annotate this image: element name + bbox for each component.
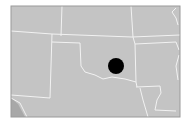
location-marker-dot: [108, 58, 124, 74]
locator-map: [0, 0, 190, 128]
map-land: [11, 6, 180, 117]
